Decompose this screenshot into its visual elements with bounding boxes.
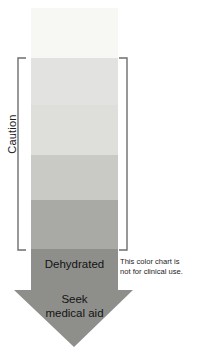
color-band-caution-1 [31,58,118,105]
disclaimer-line-2: not for clinical use. [120,267,198,277]
seek-line-2: medical aid [18,306,131,320]
color-band-caution-3 [31,155,118,200]
seek-line-1: Seek [18,292,131,306]
color-band-hydrated [31,8,118,58]
hydration-color-chart: Caution Dehydrated Seek medical aid This… [0,0,199,352]
dehydrated-label: Dehydrated [31,258,118,270]
caution-label: Caution [6,104,18,164]
color-band-column [31,8,118,249]
color-band-caution-2 [31,105,118,155]
seek-medical-aid-label: Seek medical aid [18,292,131,320]
clinical-use-disclaimer: This color chart is not for clinical use… [120,257,198,277]
color-band-caution-4 [31,200,118,249]
disclaimer-line-1: This color chart is [120,257,198,267]
